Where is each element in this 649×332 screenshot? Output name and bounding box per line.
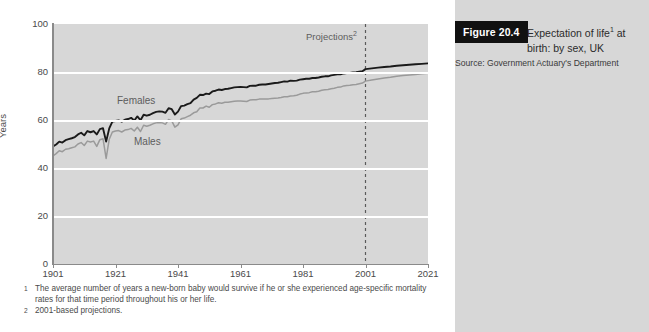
x-tick-label-1961: 1961 (221, 268, 261, 279)
y-axis-line (52, 23, 54, 265)
series-line-males (53, 73, 428, 158)
footnote-item: 1The average number of years a new-born … (24, 283, 436, 305)
series-label-males: Males (134, 136, 161, 147)
x-tick-label-2021: 2021 (408, 268, 448, 279)
x-tick-mark-1941 (178, 264, 179, 268)
y-tick-label-40: 40 (2, 163, 48, 173)
footnote-marker: 2 (24, 305, 28, 316)
figure-number-badge: Figure 20.4 (455, 21, 528, 43)
y-tick-label-100: 100 (2, 19, 48, 29)
gridline-y-40 (53, 168, 428, 170)
figure-title: Expectation of life1 atbirth: by sex, UK (527, 22, 645, 56)
series-line-females (53, 63, 428, 146)
plot-area (53, 24, 428, 264)
x-tick-label-1981: 1981 (283, 268, 323, 279)
gridline-y-60 (53, 120, 428, 122)
figure-source: Source: Government Actuary's Department (455, 58, 645, 70)
x-tick-label-2001: 2001 (346, 268, 386, 279)
gridline-y-20 (53, 216, 428, 218)
footnote-text: The average number of years a new-born b… (35, 284, 426, 304)
y-tick-label-20: 20 (2, 211, 48, 221)
x-tick-label-1941: 1941 (158, 268, 198, 279)
footnotes: 1The average number of years a new-born … (24, 283, 436, 317)
figure-title-line2: birth: by sex, UK (527, 42, 604, 54)
y-tick-label-80: 80 (2, 67, 48, 77)
series-lines (53, 24, 428, 264)
figure-title-line1: Expectation of life (527, 27, 610, 39)
y-tick-label-60: 60 (2, 115, 48, 125)
x-tick-label-1921: 1921 (96, 268, 136, 279)
gridline-y-80 (53, 72, 428, 74)
x-tick-mark-1901 (53, 264, 54, 268)
x-tick-mark-1921 (116, 264, 117, 268)
y-axis-title: Years (0, 114, 8, 138)
projections-annotation-superscript: 2 (353, 30, 357, 37)
x-tick-mark-2001 (366, 264, 367, 268)
caption-panel: Figure 20.4 Expectation of life1 atbirth… (455, 0, 649, 332)
x-tick-mark-1981 (303, 264, 304, 268)
x-tick-mark-1961 (241, 264, 242, 268)
footnote-text: 2001-based projections. (35, 306, 122, 315)
x-tick-mark-2021 (428, 264, 429, 268)
projections-annotation-text: Projections (306, 31, 353, 42)
x-tick-label-1901: 1901 (33, 268, 73, 279)
footnote-marker: 1 (24, 283, 28, 294)
chart-figure: 020406080100 190119211941196119812001202… (0, 0, 440, 332)
footnote-item: 22001-based projections. (24, 305, 436, 316)
figure-title-line1-tail: at (614, 27, 626, 39)
series-label-females: Females (117, 95, 155, 106)
projections-annotation: Projections2 (306, 30, 357, 42)
